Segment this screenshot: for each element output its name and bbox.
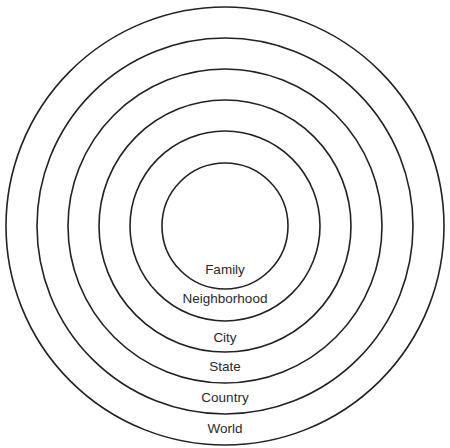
label-family: Family [0,262,450,278]
label-city: City [0,330,450,346]
label-neighborhood: Neighborhood [0,291,450,307]
label-country: Country [0,390,450,406]
ring-world [6,7,444,445]
concentric-circles-diagram [0,0,450,448]
label-world: World [0,421,450,437]
ring-city [99,100,351,352]
label-state: State [0,359,450,375]
ring-country [37,38,413,414]
